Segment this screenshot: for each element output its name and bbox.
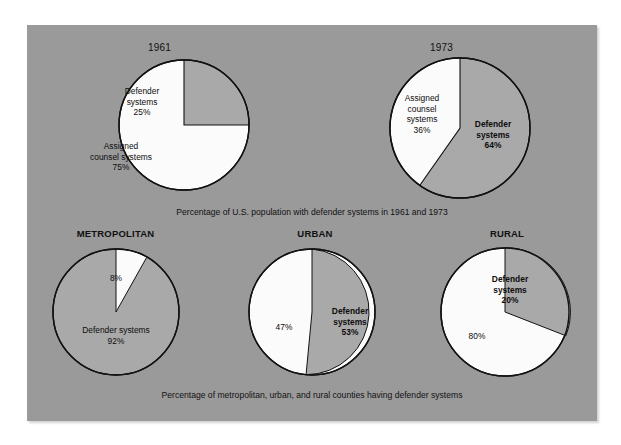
label-line: Defender (317, 306, 383, 317)
label-line: counsel (389, 104, 455, 115)
pie-metropolitan-label-defender: Defender systems 92% (60, 325, 172, 346)
pie-urban-label-other: 47% (258, 322, 310, 333)
label-line: systems (317, 317, 383, 328)
pie-1973-label-defender: Defender systems 64% (460, 119, 526, 151)
pie-metropolitan-label-other: 8% (90, 273, 142, 284)
pie-rural-label-other: 80% (451, 331, 503, 342)
pie-1973-label-assigned-counsel: Assigned counsel systems 36% (389, 93, 455, 135)
chart-title-urban: URBAN (270, 228, 360, 239)
figure-panel: 1961 Defender systems 25% Assigned couns… (27, 25, 597, 421)
chart-title-metropolitan: METROPOLITAN (69, 228, 162, 239)
pie-1961-label-assigned-counsel: Assigned counsel systems 75% (65, 141, 177, 173)
label-line: 53% (317, 327, 383, 338)
chart-title-rural: RURAL (462, 228, 552, 239)
pie-chart-rural (440, 247, 570, 377)
pie-1961-slice-defender (184, 60, 249, 125)
label-line: systems (109, 97, 175, 108)
label-line: systems (460, 130, 526, 141)
label-line: 20% (477, 295, 543, 306)
pie-metropolitan-svg (52, 248, 180, 376)
label-line: Defender (477, 274, 543, 285)
chart-title-1961: 1961 (148, 42, 171, 53)
pie-urban-label-defender: Defender systems 53% (317, 306, 383, 338)
label-line: 25% (109, 107, 175, 118)
label-line: 47% (258, 322, 310, 333)
label-line: Defender (109, 86, 175, 97)
label-line: 36% (389, 125, 455, 136)
label-line: 92% (60, 336, 172, 347)
label-line: 75% (65, 162, 177, 173)
label-line: Assigned (65, 141, 177, 152)
pie-chart-metropolitan (52, 248, 180, 376)
pie-rural-svg (440, 247, 570, 377)
label-line: systems (389, 114, 455, 125)
label-line: systems (477, 285, 543, 296)
label-line: Defender (460, 119, 526, 130)
label-line: 64% (460, 140, 526, 151)
caption-top-row: Percentage of U.S. population with defen… (27, 207, 597, 217)
caption-bottom-row: Percentage of metropolitan, urban, and r… (27, 390, 597, 400)
label-line: Assigned (389, 93, 455, 104)
label-line: 80% (451, 331, 503, 342)
pie-1961-label-defender: Defender systems 25% (109, 86, 175, 118)
label-line: Defender systems (60, 325, 172, 336)
label-line: counsel systems (65, 152, 177, 163)
pie-rural-label-defender: Defender systems 20% (477, 274, 543, 306)
label-line: 8% (90, 273, 142, 284)
chart-title-1973: 1973 (430, 42, 453, 53)
